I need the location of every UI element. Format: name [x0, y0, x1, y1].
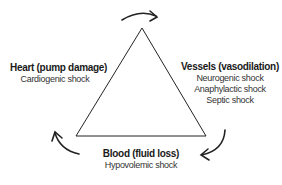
blood-title: Blood (fluid loss) — [96, 148, 186, 160]
vessels-item: Neurogenic shock — [180, 73, 280, 84]
heart-item: Cardiogenic shock — [10, 74, 100, 85]
cycle-arrow-top-icon — [122, 11, 157, 21]
heart-title: Heart (pump damage) — [10, 62, 100, 74]
vessels-item: Anaphylactic shock — [180, 84, 280, 95]
vessels-node: Vessels (vasodilation) Neurogenic shock … — [180, 61, 280, 106]
blood-node: Blood (fluid loss) Hypovolemic shock — [96, 148, 186, 171]
heart-node: Heart (pump damage) Cardiogenic shock — [10, 62, 100, 85]
blood-item: Hypovolemic shock — [96, 160, 186, 171]
cycle-arrow-left-icon — [52, 132, 79, 154]
vessels-title: Vessels (vasodilation) — [180, 61, 280, 73]
vessels-item: Septic shock — [180, 95, 280, 106]
